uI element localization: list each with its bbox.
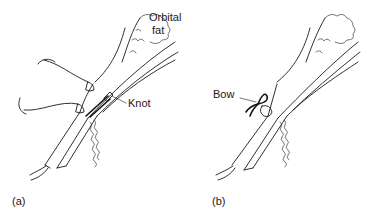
orbital-fat-label-line1: Orbital	[149, 12, 181, 23]
panel-a-caption: (a)	[12, 196, 25, 207]
panel-b-drawing	[0, 0, 377, 212]
panel-b-caption: (b)	[212, 196, 225, 207]
surgical-diagram: Orbital fat Knot Bow (a) (b)	[0, 0, 377, 212]
orbital-fat-label-line2: fat	[152, 25, 164, 36]
knot-label: Knot	[128, 98, 151, 109]
bow-label: Bow	[213, 89, 234, 100]
